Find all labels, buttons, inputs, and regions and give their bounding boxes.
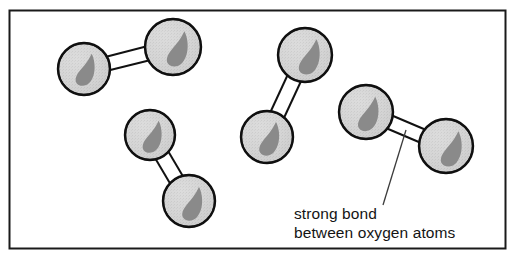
figure-root: strong bond between oxygen atoms xyxy=(0,0,515,262)
annotation-label-line-2: between oxygen atoms xyxy=(294,224,456,241)
atom-oxygen xyxy=(339,85,393,139)
atom-oxygen xyxy=(145,19,201,75)
atom-oxygen xyxy=(163,175,215,227)
atom-oxygen xyxy=(278,28,332,82)
atom-oxygen xyxy=(419,119,473,173)
oxygen-molecules-diagram: strong bond between oxygen atoms xyxy=(0,0,515,262)
atom-oxygen xyxy=(241,111,293,163)
atom-oxygen xyxy=(58,43,110,95)
atom-oxygen xyxy=(125,110,175,160)
annotation-label-line-1: strong bond xyxy=(294,205,377,222)
